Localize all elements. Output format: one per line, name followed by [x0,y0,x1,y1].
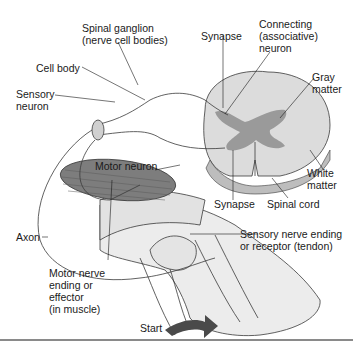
label-line: (associative) [259,30,318,42]
label-motor-neuron: Motor neuron [95,160,157,172]
label-line: Gray [312,71,342,83]
label-line: Sensory nerve ending [240,228,342,240]
label-sensory-neuron: Sensory neuron [16,88,55,112]
label-line: matter [312,83,342,95]
label-line: matter [307,179,337,191]
label-gray-matter: Gray matter [312,71,342,95]
label-line: Connecting [259,18,318,30]
label-line: Spinal ganglion [82,22,168,34]
label-line: ending or [49,279,105,291]
bottom-divider [0,339,353,341]
label-white-matter: White matter [307,167,337,191]
leg-drawing [100,191,320,336]
label-synapse-top: Synapse [201,30,242,42]
label-cell-body: Cell body [36,62,80,74]
label-axon: Axon [16,231,40,243]
label-sensory-nerve-ending: Sensory nerve ending or receptor (tendon… [240,228,342,252]
label-line: or receptor (tendon) [240,240,342,252]
label-line: effector [49,291,105,303]
label-line: (nerve cell bodies) [82,34,168,46]
label-line: Sensory [16,88,55,100]
label-spinal-cord: Spinal cord [267,198,320,210]
label-line: neuron [16,100,55,112]
label-connecting-neuron: Connecting (associative) neuron [259,18,318,54]
label-line: White [307,167,337,179]
label-line: Motor nerve [49,267,105,279]
label-line: (in muscle) [49,303,105,315]
label-start: Start [140,322,162,334]
label-spinal-ganglion: Spinal ganglion (nerve cell bodies) [82,22,168,46]
label-motor-nerve-ending: Motor nerve ending or effector (in muscl… [49,267,105,315]
label-synapse-bottom: Synapse [214,198,255,210]
label-line: neuron [259,42,318,54]
